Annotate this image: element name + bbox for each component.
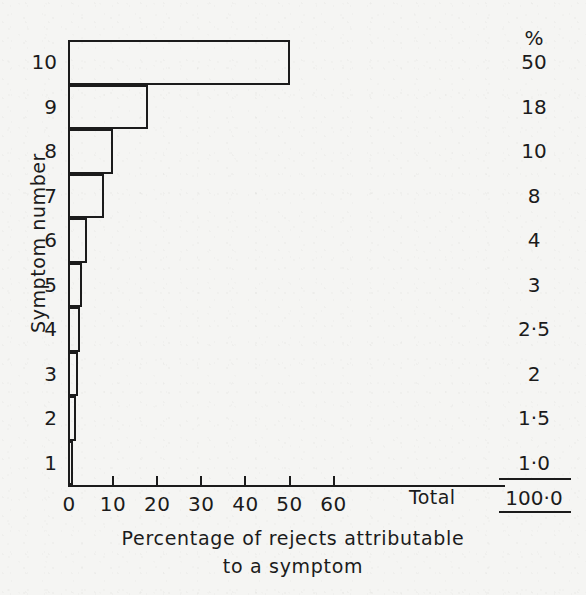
x-axis-tick-label: 50: [276, 492, 302, 516]
x-axis-tick: [333, 476, 335, 485]
y-axis-tick-label-6: 6: [14, 228, 57, 252]
percent-value-symptom-7: 8: [528, 184, 541, 208]
bar-symptom-2: [68, 396, 76, 441]
bar-symptom-8: [68, 129, 113, 174]
percent-value-symptom-9: 18: [521, 95, 546, 119]
y-axis-tick-label-3: 3: [14, 362, 57, 386]
x-axis-title-line-1: Percentage of rejects attributable: [0, 527, 586, 549]
bar-symptom-4: [68, 307, 80, 352]
x-axis-tick: [244, 476, 246, 485]
total-rule-top: [499, 478, 571, 480]
bar-symptom-3: [68, 352, 78, 397]
percent-column-header: %: [524, 26, 543, 50]
x-axis-tick-label: 30: [188, 492, 214, 516]
x-axis-tick: [156, 476, 158, 485]
y-axis-tick-label-4: 4: [14, 317, 57, 341]
bar-symptom-10: [68, 40, 290, 85]
total-value: 100·0: [505, 486, 562, 510]
y-axis-tick-label-5: 5: [14, 273, 57, 297]
y-axis-tick-label-2: 2: [14, 406, 57, 430]
x-axis-tick: [289, 476, 291, 485]
y-axis-tick-label-9: 9: [14, 95, 57, 119]
y-axis-tick-label-10: 10: [14, 50, 57, 74]
total-label: Total: [409, 486, 455, 508]
percent-value-symptom-8: 10: [521, 139, 546, 163]
bar-symptom-9: [68, 85, 148, 130]
x-axis-tick: [112, 476, 114, 485]
x-axis-tick-label: 60: [320, 492, 346, 516]
bar-symptom-6: [68, 218, 87, 263]
x-axis-tick-label: 40: [232, 492, 258, 516]
bar-symptom-5: [68, 263, 82, 308]
bar-symptom-7: [68, 174, 104, 219]
percent-value-symptom-10: 50: [521, 50, 546, 74]
percent-value-symptom-1: 1·0: [518, 451, 550, 475]
percent-value-symptom-5: 3: [528, 273, 541, 297]
y-axis-tick-label-1: 1: [14, 451, 57, 475]
x-axis-tick-label: 10: [100, 492, 126, 516]
bar-chart-plot: Symptom number Percentage of rejects att…: [0, 0, 586, 595]
x-axis-tick-label: 0: [62, 492, 75, 516]
y-axis-tick-label-7: 7: [14, 184, 57, 208]
chart-page: Symptom number Percentage of rejects att…: [0, 0, 586, 595]
percent-value-symptom-6: 4: [528, 228, 541, 252]
percent-value-symptom-2: 1·5: [518, 406, 550, 430]
y-axis-tick-label-8: 8: [14, 139, 57, 163]
x-axis-tick: [200, 476, 202, 485]
percent-value-symptom-3: 2: [528, 362, 541, 386]
percent-value-symptom-4: 2·5: [518, 317, 550, 341]
x-axis-title-line-2: to a symptom: [0, 555, 586, 577]
total-rule-bottom: [499, 511, 571, 513]
x-axis-tick-label: 20: [144, 492, 170, 516]
bar-symptom-1: [68, 441, 73, 486]
